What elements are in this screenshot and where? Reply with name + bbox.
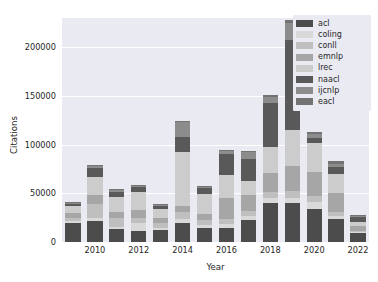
- bar-segment: [175, 152, 190, 206]
- bar-segment: [109, 192, 124, 197]
- bar-segment: [307, 202, 322, 209]
- bar-segment: [65, 202, 80, 203]
- bar-group: [350, 215, 365, 242]
- bar-segment: [241, 159, 256, 180]
- bar-segment: [153, 230, 168, 242]
- bar-segment: [307, 132, 322, 134]
- bar-segment: [153, 228, 168, 230]
- bar-segment: [241, 216, 256, 220]
- bar-segment: [241, 220, 256, 242]
- bar-segment: [197, 225, 212, 228]
- x-axis-ticks: 2010201220142016201820202022: [62, 245, 369, 261]
- bar-segment: [219, 151, 234, 154]
- bar-segment: [197, 186, 212, 187]
- bar-segment: [350, 216, 365, 217]
- bar-segment: [87, 168, 102, 177]
- bar-segment: [65, 204, 80, 206]
- legend-item-coling[interactable]: coling: [296, 29, 367, 40]
- bar-group: [263, 95, 278, 242]
- bar-segment: [175, 121, 190, 122]
- bar-segment: [328, 167, 343, 174]
- bar-segment: [263, 173, 278, 192]
- legend-item-naacl[interactable]: naacl: [296, 74, 367, 85]
- x-tick-label: 2018: [260, 245, 281, 255]
- bar-segment: [197, 220, 212, 226]
- bar-segment: [328, 164, 343, 167]
- bar-segment: [307, 196, 322, 202]
- bar-segment: [153, 223, 168, 229]
- bar-segment: [307, 209, 322, 242]
- bar-segment: [328, 193, 343, 212]
- gridline: [62, 193, 369, 194]
- legend-swatch-icon: [296, 98, 313, 105]
- bar-segment: [219, 154, 234, 174]
- bar-segment: [219, 150, 234, 151]
- legend-swatch-icon: [296, 54, 313, 61]
- bar-segment: [65, 206, 80, 213]
- bar-segment: [241, 211, 256, 216]
- y-tick-label: 50000: [30, 188, 56, 198]
- legend-item-emnlp[interactable]: emnlp: [296, 52, 367, 63]
- bar-group: [328, 161, 343, 242]
- bar-segment: [285, 130, 300, 166]
- bar-segment: [65, 218, 80, 221]
- bar-segment: [241, 152, 256, 159]
- figure: 050000100000150000200000 Citations 20102…: [0, 0, 378, 282]
- bar-segment: [65, 221, 80, 223]
- x-tick-label: 2020: [304, 245, 325, 255]
- bar-group: [241, 151, 256, 242]
- bar-segment: [87, 166, 102, 168]
- bar-segment: [328, 212, 343, 216]
- bar-segment: [175, 212, 190, 219]
- bar-segment: [219, 175, 234, 198]
- bar-segment: [285, 203, 300, 242]
- bar-segment: [87, 204, 102, 218]
- y-axis-label: Citations: [9, 85, 19, 185]
- bar-segment: [87, 218, 102, 221]
- bar-segment: [197, 188, 212, 194]
- bar-segment: [87, 177, 102, 196]
- bar-segment: [263, 95, 278, 97]
- bar-group: [87, 165, 102, 242]
- bar-segment: [197, 187, 212, 189]
- legend-label: ijcnlp: [318, 87, 339, 95]
- bar-group: [153, 204, 168, 242]
- legend-label: conll: [318, 42, 337, 50]
- legend-item-ijcnlp[interactable]: ijcnlp: [296, 85, 367, 96]
- legend-item-eacl[interactable]: eacl: [296, 96, 367, 107]
- bar-segment: [350, 222, 365, 227]
- y-tick-label: 0: [51, 237, 56, 247]
- bar-group: [307, 132, 322, 242]
- bar-segment: [285, 191, 300, 198]
- bar-segment: [307, 138, 322, 143]
- bar-segment: [219, 224, 234, 228]
- bar-segment: [350, 217, 365, 222]
- y-tick-label: 200000: [25, 42, 56, 52]
- bar-segment: [263, 198, 278, 203]
- bar-segment: [350, 215, 365, 216]
- bar-segment: [263, 97, 278, 103]
- bar-segment: [263, 192, 278, 198]
- bar-segment: [285, 166, 300, 191]
- bar-segment: [109, 229, 124, 242]
- legend-swatch-icon: [296, 87, 313, 94]
- gridline: [62, 145, 369, 146]
- bar-group: [131, 185, 146, 242]
- bar-group: [197, 186, 212, 242]
- bar-segment: [307, 134, 322, 138]
- legend-item-lrec[interactable]: lrec: [296, 63, 367, 74]
- legend-swatch-icon: [296, 42, 313, 49]
- bar-segment: [350, 233, 365, 242]
- legend-item-conll[interactable]: conll: [296, 40, 367, 51]
- legend-label: coling: [318, 31, 342, 39]
- bar-segment: [219, 198, 234, 218]
- legend-item-acl[interactable]: acl: [296, 18, 367, 29]
- bar-segment: [153, 205, 168, 206]
- bar-segment: [131, 192, 146, 210]
- bar-segment: [350, 226, 365, 231]
- legend-swatch-icon: [296, 31, 313, 38]
- bar-segment: [131, 186, 146, 188]
- bar-segment: [87, 165, 102, 166]
- bar-segment: [175, 223, 190, 242]
- x-axis-label: Year: [62, 262, 369, 272]
